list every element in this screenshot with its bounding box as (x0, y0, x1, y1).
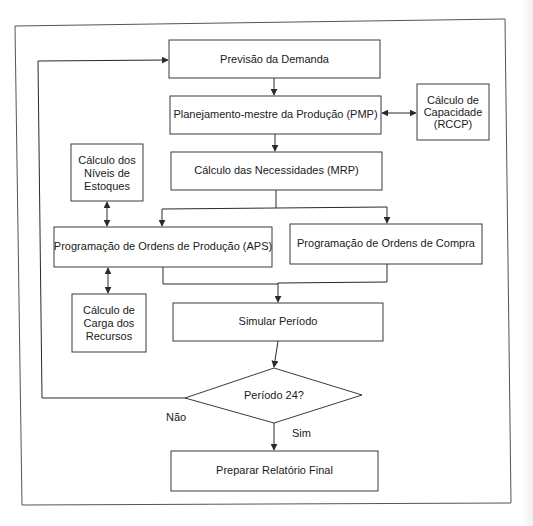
flowchart-canvas: Previsão da Demanda Planejamento-mestre … (0, 0, 533, 526)
svg-text:Programação de Ordens de Produ: Programação de Ordens de Produção (APS) (54, 240, 272, 252)
svg-text:Níveis de: Níveis de (84, 167, 130, 179)
node-carga-recursos: Cálculo de Carga dos Recursos (72, 294, 146, 352)
connector-aps-merge (163, 267, 278, 284)
page-edge-shadow (521, 0, 533, 526)
svg-text:Estoques: Estoques (84, 180, 130, 192)
node-aps: Programação de Ordens de Produção (APS) (54, 227, 272, 267)
arrow-mrp-compra (276, 207, 387, 223)
node-decisao-periodo-24: Período 24? (185, 368, 362, 423)
svg-text:Recursos: Recursos (86, 330, 133, 342)
svg-text:Período 24?: Período 24? (244, 389, 304, 401)
svg-text:Cálculo de: Cálculo de (83, 304, 135, 316)
node-pmp: Planejamento-mestre da Produção (PMP) (170, 96, 381, 134)
svg-text:Previsão da Demanda: Previsão da Demanda (220, 53, 330, 65)
node-niveis-estoques: Cálculo dos Níveis de Estoques (71, 144, 143, 201)
svg-text:Simular Período: Simular Período (239, 315, 318, 327)
svg-text:Carga dos: Carga dos (84, 317, 135, 329)
edge-label-nao: Não (166, 411, 186, 423)
svg-text:Capacidade: Capacidade (424, 106, 483, 118)
svg-text:Cálculo dos: Cálculo dos (78, 154, 136, 166)
svg-text:Programação de Ordens de Compr: Programação de Ordens de Compra (297, 237, 476, 249)
node-simular-periodo: Simular Período (173, 303, 383, 341)
node-ordens-compra: Programação de Ordens de Compra (290, 224, 482, 264)
node-mrp: Cálculo das Necessidades (MRP) (171, 152, 382, 190)
connector-compra-merge (278, 264, 387, 283)
node-rccp: Cálculo de Capacidade (RCCP) (417, 84, 489, 140)
node-previsao-demanda: Previsão da Demanda (169, 40, 380, 78)
svg-text:Cálculo de: Cálculo de (427, 94, 479, 106)
svg-text:Cálculo das Necessidades (MRP): Cálculo das Necessidades (MRP) (194, 164, 358, 176)
arrow-simular-decisao (274, 341, 278, 367)
node-relatorio-final: Preparar Relatório Final (171, 451, 378, 491)
svg-text:Preparar Relatório Final: Preparar Relatório Final (216, 464, 333, 476)
edge-label-sim: Sim (292, 427, 311, 439)
svg-text:(RCCP): (RCCP) (434, 118, 473, 130)
arrow-mrp-aps (162, 208, 276, 226)
svg-text:Planejamento-mestre da Produçã: Planejamento-mestre da Produção (PMP) (173, 108, 377, 120)
